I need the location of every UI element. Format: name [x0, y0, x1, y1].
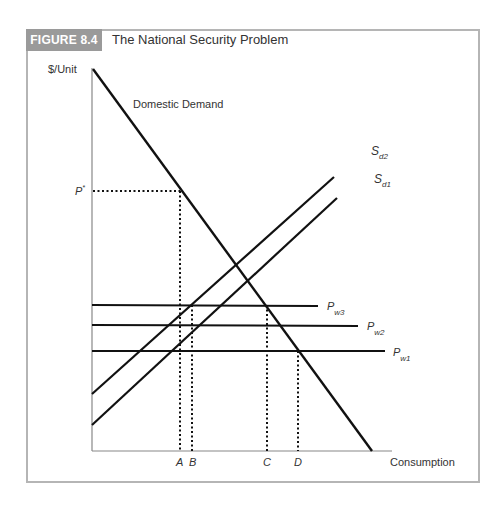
sd1-label: Sd1 [374, 172, 391, 189]
demand-line [93, 69, 372, 451]
pw3-label: Pw3 [327, 300, 345, 317]
chart-canvas: $/Unit Consumption Domestic Demand P* Sd… [0, 0, 503, 513]
y-axis-label: $/Unit [48, 63, 77, 75]
pw1-label: Pw1 [393, 346, 411, 363]
tick-c: C [263, 456, 271, 468]
tick-d: D [294, 456, 302, 468]
p-star-label: P* [75, 184, 85, 197]
pw2-line [92, 325, 358, 326]
tick-a: A [175, 456, 183, 468]
tick-b: B [189, 456, 196, 468]
pw3-line [92, 305, 318, 306]
sd2-label: Sd2 [371, 144, 388, 161]
pw2-label: Pw2 [367, 320, 385, 337]
sd1-line [92, 198, 337, 425]
x-axis-label: Consumption [390, 456, 455, 468]
demand-label: Domestic Demand [133, 98, 223, 110]
